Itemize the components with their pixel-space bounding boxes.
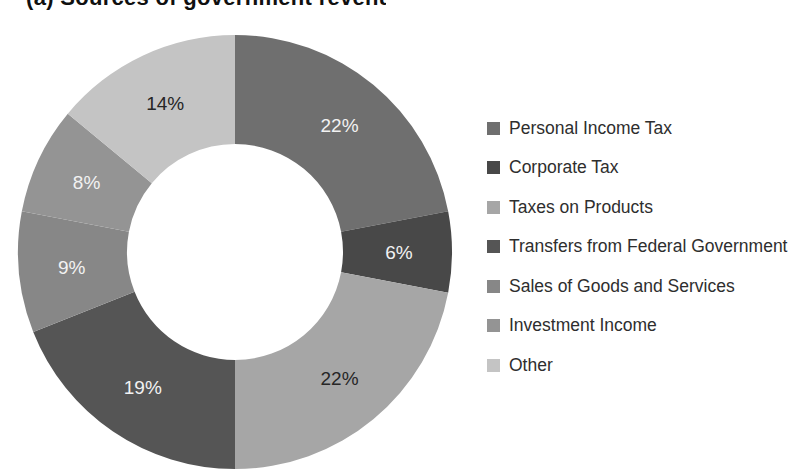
slice-value-label: 19% xyxy=(124,377,162,398)
legend-label: Transfers from Federal Government xyxy=(509,236,787,257)
legend-item: Corporate Tax xyxy=(487,159,787,177)
legend-item: Investment Income xyxy=(487,317,787,335)
legend-label: Sales of Goods and Services xyxy=(509,276,735,297)
legend-swatch xyxy=(487,240,500,253)
legend-swatch xyxy=(487,359,500,372)
legend-swatch xyxy=(487,280,500,293)
figure: (a) Sources of government revenue 22%6%2… xyxy=(0,0,810,472)
legend-swatch xyxy=(487,319,500,332)
legend-item: Transfers from Federal Government xyxy=(487,238,787,256)
legend-label: Investment Income xyxy=(509,315,657,336)
legend-swatch xyxy=(487,161,500,174)
legend-item: Taxes on Products xyxy=(487,198,787,216)
donut-chart: 22%6%22%19%9%8%14% xyxy=(0,0,470,472)
legend-label: Other xyxy=(509,355,553,376)
legend-swatch xyxy=(487,201,500,214)
slice-value-label: 22% xyxy=(321,368,359,389)
legend-item: Sales of Goods and Services xyxy=(487,277,787,295)
legend-label: Corporate Tax xyxy=(509,157,619,178)
legend-label: Personal Income Tax xyxy=(509,118,672,139)
slice-value-label: 6% xyxy=(385,242,413,263)
slice-value-label: 8% xyxy=(73,172,101,193)
legend-item: Personal Income Tax xyxy=(487,119,787,137)
legend-swatch xyxy=(487,122,500,135)
legend-item: Other xyxy=(487,356,787,374)
legend: Personal Income Tax Corporate Tax Taxes … xyxy=(487,119,787,396)
slice-value-label: 22% xyxy=(321,115,359,136)
slice-value-label: 9% xyxy=(58,257,86,278)
legend-label: Taxes on Products xyxy=(509,197,653,218)
slice-value-label: 14% xyxy=(146,93,184,114)
